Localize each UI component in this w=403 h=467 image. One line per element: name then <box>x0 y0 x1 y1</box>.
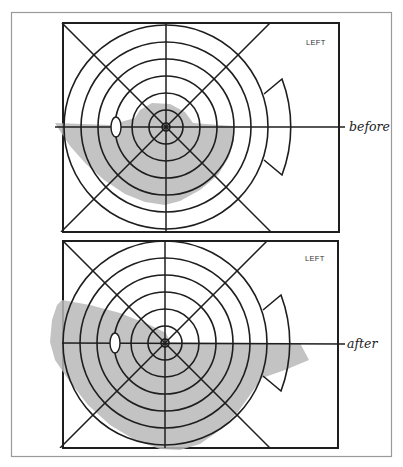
horizontal-meridian <box>62 343 345 344</box>
panel-before: LEFT before <box>55 22 390 232</box>
state-label-after: after <box>347 336 378 351</box>
blind-spot <box>111 117 121 137</box>
blind-spot <box>110 333 120 353</box>
state-label-before: before <box>349 119 390 134</box>
eye-label: LEFT <box>306 38 326 47</box>
eye-label: LEFT <box>305 254 325 263</box>
panel-after: LEFT after <box>50 240 378 450</box>
visual-field-figure: LEFT before LEFT after <box>0 0 403 467</box>
